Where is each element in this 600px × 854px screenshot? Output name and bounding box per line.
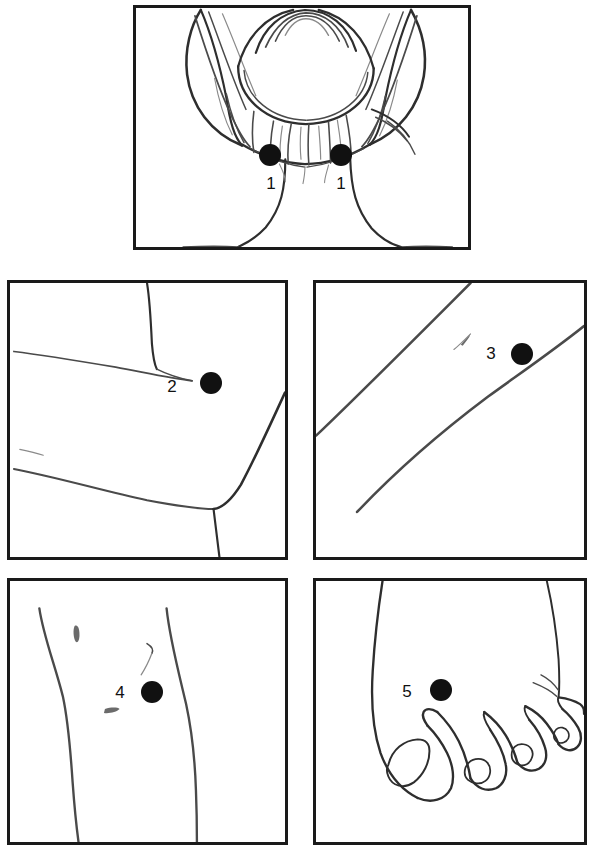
- marker-dot-5: [430, 679, 452, 701]
- marker-dot-3: [511, 343, 533, 365]
- marker-dot-4: [141, 681, 163, 703]
- marker-dot-1a: [259, 144, 281, 166]
- elbow-illustration: [10, 283, 285, 557]
- marker-label-3: 3: [486, 345, 495, 362]
- marker-label-5: 5: [402, 683, 411, 700]
- knee-leg-illustration: [10, 581, 285, 842]
- foot-illustration: [316, 581, 584, 842]
- panel-head-neck: [133, 5, 471, 250]
- marker-label-4: 4: [115, 684, 124, 701]
- marker-label-1b: 1: [336, 175, 345, 192]
- marker-dot-2: [200, 372, 222, 394]
- marker-dot-1b: [330, 144, 352, 166]
- panel-knee-leg: [7, 578, 288, 845]
- anatomical-figure: 1 1 2 3 4 5: [0, 0, 600, 854]
- panel-forearm: [313, 280, 587, 560]
- panel-foot: [313, 578, 587, 845]
- marker-label-1a: 1: [266, 175, 275, 192]
- panel-elbow: [7, 280, 288, 560]
- forearm-illustration: [316, 283, 584, 557]
- marker-label-2: 2: [167, 378, 176, 395]
- head-neck-illustration: [136, 8, 468, 247]
